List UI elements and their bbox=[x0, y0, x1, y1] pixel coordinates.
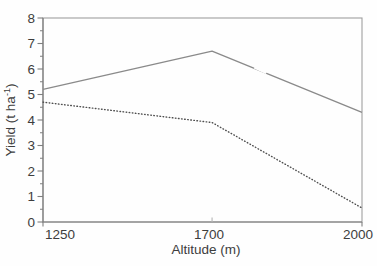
dotted-yield-line bbox=[43, 102, 362, 208]
y-tick-label: 1 bbox=[27, 189, 35, 204]
x-tick-label: 2000 bbox=[343, 227, 373, 242]
plot-frame bbox=[43, 18, 362, 222]
y-axis-label: Yield (t ha-1) bbox=[2, 84, 18, 157]
y-tick-label: 3 bbox=[27, 138, 35, 153]
x-tick-label: 1250 bbox=[45, 227, 75, 242]
y-tick-label: 6 bbox=[27, 62, 35, 77]
y-tick-label: 5 bbox=[27, 87, 35, 102]
x-tick-label: 1700 bbox=[194, 227, 224, 242]
x-axis-label: Altitude (m) bbox=[171, 242, 240, 257]
y-tick-label: 0 bbox=[27, 215, 35, 230]
y-tick-label: 8 bbox=[27, 11, 35, 26]
y-tick-label: 7 bbox=[27, 36, 35, 51]
yield-vs-altitude-chart: 012345678125017002000Altitude (m)Yield (… bbox=[0, 0, 377, 266]
yield-vs-altitude-figure: 012345678125017002000Altitude (m)Yield (… bbox=[0, 0, 377, 266]
y-tick-label: 2 bbox=[27, 164, 35, 179]
solid-yield-line bbox=[43, 51, 362, 112]
axis-spines bbox=[43, 18, 362, 222]
y-tick-label: 4 bbox=[27, 113, 35, 128]
